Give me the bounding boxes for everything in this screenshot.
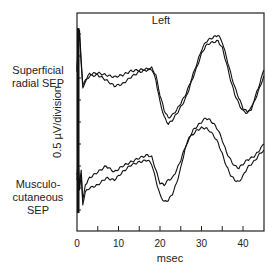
sep-trace-upper <box>77 34 264 125</box>
plot-area <box>0 0 278 274</box>
traces <box>77 28 264 213</box>
x-tick-label: 20 <box>154 238 165 249</box>
x-axis-ticks <box>98 226 243 231</box>
x-axis-label: msec <box>157 252 183 264</box>
y-axis-label: 0.5 µV/division <box>51 86 63 158</box>
sep-trace-upper <box>77 30 264 118</box>
trace-label-line: cutaneous <box>2 191 74 204</box>
x-tick-label: 30 <box>196 238 207 249</box>
plot-frame <box>77 13 264 231</box>
x-tick-label: 10 <box>113 238 124 249</box>
x-tick-label: 40 <box>237 238 248 249</box>
x-tick-label: 0 <box>74 238 80 249</box>
trace-label-superficial-radial: Superficial radial SEP <box>2 64 74 90</box>
trace-label-line: Superficial <box>2 64 74 77</box>
sep-trace-lower <box>77 118 264 200</box>
panel-title: Left <box>152 14 170 26</box>
trace-label-line: SEP <box>2 204 74 217</box>
stimulus-artifact <box>77 28 80 213</box>
trace-label-musculocutaneous: Musculo- cutaneous SEP <box>2 178 74 217</box>
trace-label-line: Musculo- <box>2 178 74 191</box>
sep-figure: Left Superficial radial SEP Musculo- cut… <box>0 0 278 274</box>
trace-label-line: radial SEP <box>2 77 74 90</box>
